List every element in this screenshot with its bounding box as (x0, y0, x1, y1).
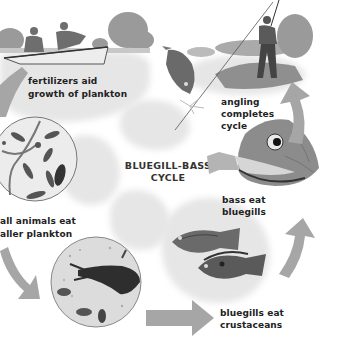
label-bluegills-line1: bluegills eat (220, 307, 284, 319)
label-fertilizers-line2: growth of plankton (28, 88, 127, 100)
bluegill-fish-illustration (168, 220, 268, 310)
cycle-arrow-4 (275, 218, 315, 278)
diagram-title-line1: BLUEGILL-BASS (124, 160, 212, 172)
label-bass-eat-line1: bass eat (222, 194, 266, 206)
crustacean-magnified-circle (50, 236, 142, 328)
diagram-title-line2: CYCLE (124, 172, 212, 184)
label-angling-line3: cycle (221, 120, 247, 132)
label-small-animals-line1: all animals eat (0, 215, 76, 227)
label-angling-line1: angling (221, 96, 260, 108)
label-angling-line2: completes (221, 108, 274, 120)
label-fertilizers-line1: fertilizers aid (28, 75, 97, 87)
bluegill-bass-cycle-diagram: fertilizers aid growth of plankton BLUEG… (0, 0, 344, 359)
label-bluegills-line2: crustaceans (220, 319, 282, 331)
plankton-magnified-circle (0, 115, 80, 205)
label-bass-eat-line2: bluegills (222, 206, 266, 218)
boat-scene-illustration (0, 0, 160, 70)
cycle-arrow-1 (0, 65, 30, 120)
cycle-arrow-2 (0, 245, 42, 303)
jumping-bass-illustration (160, 46, 210, 116)
